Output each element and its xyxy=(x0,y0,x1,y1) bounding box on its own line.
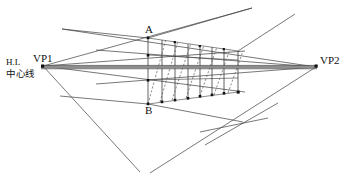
dot-v8-bottom xyxy=(237,91,240,94)
top-edge-right xyxy=(148,8,252,38)
point-b-label: B xyxy=(145,105,152,116)
dot-ab-1 xyxy=(147,54,150,57)
center-line-label: 中心线 xyxy=(6,69,35,79)
dot-v3-bottom xyxy=(174,99,177,102)
dot-v7-top xyxy=(223,48,225,50)
horizon-line-group xyxy=(41,65,317,68)
dot-a xyxy=(147,37,150,40)
dot-v4-bottom xyxy=(187,97,190,100)
dot-vp1 xyxy=(41,65,44,68)
ray-vp2-top xyxy=(62,29,316,67)
dot-ab-2 xyxy=(147,79,150,82)
vp2-label: VP2 xyxy=(320,55,340,66)
bottom-edge-right xyxy=(148,104,243,122)
dot-v2-bottom xyxy=(161,101,164,104)
top-edge-left xyxy=(62,29,148,38)
vp1-label: VP1 xyxy=(33,53,53,64)
dot-v5-top xyxy=(199,45,201,47)
dot-v6-bottom xyxy=(211,94,214,97)
top-edge-far xyxy=(238,14,295,51)
ray-vp1-lower xyxy=(43,66,245,92)
dashed-diag-7 xyxy=(228,51,243,93)
dashed-diag-1 xyxy=(148,39,166,104)
top-edge-lines xyxy=(62,8,295,51)
point-a-label: A xyxy=(145,24,153,35)
dot-vp2 xyxy=(315,65,318,68)
construction-rays xyxy=(43,8,316,173)
diagram-canvas xyxy=(0,0,346,176)
dashed-diag-4 xyxy=(186,45,204,98)
dot-v7-bottom xyxy=(223,92,226,95)
horizon-line-label: H.L xyxy=(6,58,20,67)
perspective-diagram: H.L 中心线 VP1 VP2 A B xyxy=(0,0,346,176)
dot-v3-top xyxy=(174,41,176,43)
dot-v5-bottom xyxy=(199,95,202,98)
bottom-edge-left xyxy=(60,96,148,104)
bottom-cross-a xyxy=(205,103,278,145)
ray-vp2-lower xyxy=(96,67,316,84)
